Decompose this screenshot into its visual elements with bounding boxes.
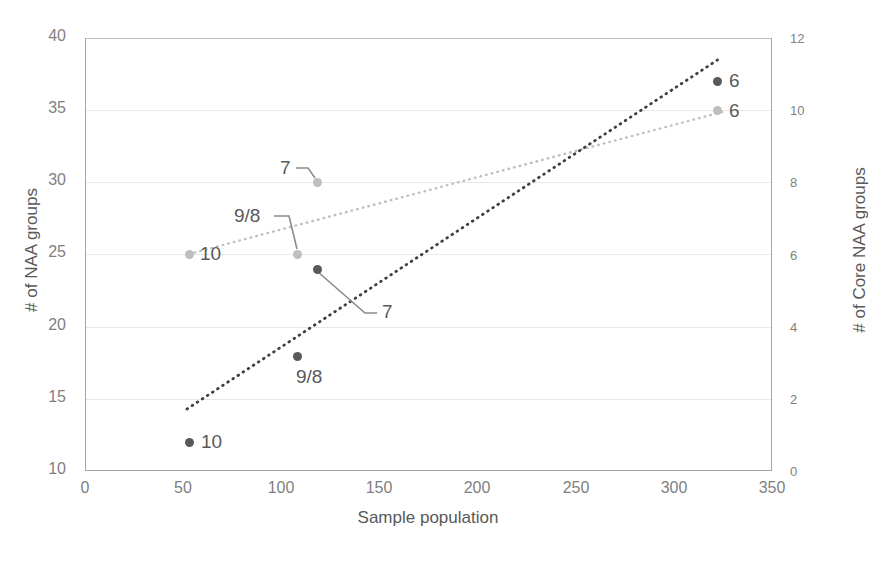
label-naa-7: 7 (382, 301, 393, 323)
xtick-100: 100 (251, 479, 311, 497)
ytick-left-15: 15 (20, 388, 66, 406)
label-core-6: 6 (729, 100, 740, 122)
ytick-right-8: 8 (790, 175, 836, 190)
label-naa-6: 6 (729, 70, 740, 92)
point-naa-7[interactable] (313, 265, 322, 274)
ytick-right-12: 12 (790, 31, 836, 46)
ytick-right-0: 0 (790, 464, 836, 479)
label-core-98: 9/8 (234, 205, 260, 227)
label-naa-10: 10 (201, 431, 222, 453)
xtick-250: 250 (546, 479, 606, 497)
y-axis-left-title: # of NAA groups (22, 130, 42, 370)
point-core-7[interactable] (313, 178, 322, 187)
xtick-150: 150 (349, 479, 409, 497)
y-axis-right-title: # of Core NAA groups (850, 100, 870, 400)
point-naa-6[interactable] (713, 77, 722, 86)
xtick-50: 50 (153, 479, 213, 497)
ytick-right-4: 4 (790, 320, 836, 335)
label-naa-98: 9/8 (296, 366, 322, 388)
x-axis-title: Sample population (0, 508, 856, 528)
xtick-300: 300 (644, 479, 704, 497)
ytick-left-35: 35 (20, 99, 66, 117)
ytick-right-2: 2 (790, 392, 836, 407)
label-core-10: 10 (200, 243, 221, 265)
point-core-10[interactable] (185, 250, 194, 259)
ytick-left-10: 10 (20, 460, 66, 478)
point-core-98[interactable] (293, 250, 302, 259)
ytick-right-10: 10 (790, 103, 836, 118)
ytick-right-6: 6 (790, 248, 836, 263)
xtick-0: 0 (55, 479, 115, 497)
point-naa-10[interactable] (185, 438, 194, 447)
point-core-6[interactable] (713, 106, 722, 115)
xtick-200: 200 (447, 479, 507, 497)
ytick-left-40: 40 (20, 27, 66, 45)
xtick-350: 350 (742, 479, 802, 497)
point-naa-98[interactable] (293, 352, 302, 361)
label-core-7: 7 (280, 157, 291, 179)
